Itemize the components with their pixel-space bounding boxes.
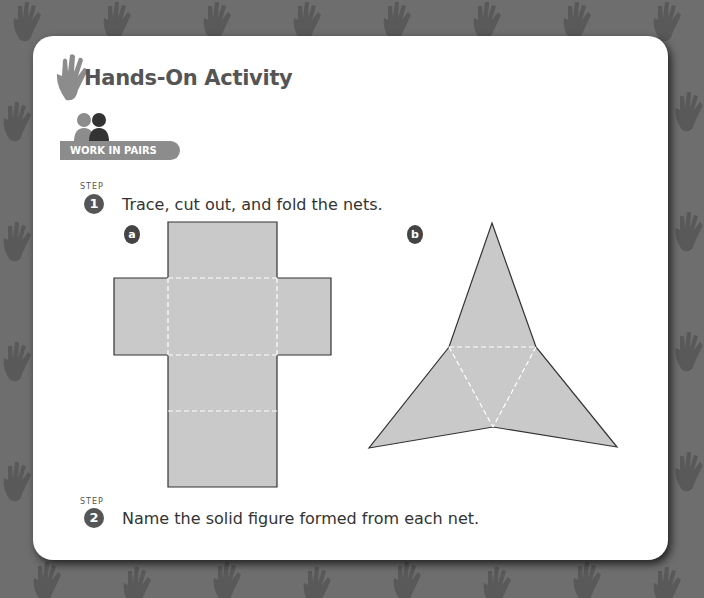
net-b-pyramid — [369, 223, 617, 448]
step-2-badge: 2 — [84, 508, 104, 528]
net-a-cube — [114, 222, 331, 487]
step-2-text: Name the solid figure formed from each n… — [122, 509, 479, 528]
step-2-word: STEP — [80, 497, 104, 506]
